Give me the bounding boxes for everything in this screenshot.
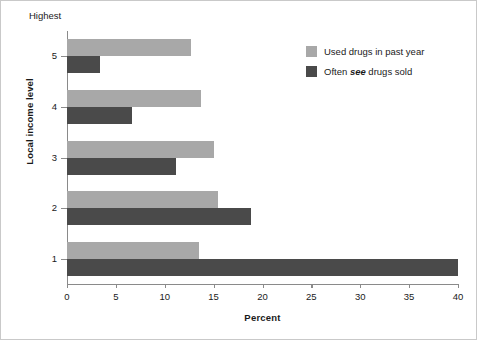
legend: Used drugs in past year Often see drugs …	[306, 46, 424, 86]
legend-item-see-drugs-sold: Often see drugs sold	[306, 66, 424, 77]
bar-group-level-3	[67, 141, 458, 175]
legend-label-used-drugs: Used drugs in past year	[324, 46, 424, 57]
x-tick-label-0: 0	[52, 291, 82, 302]
x-tick-15	[214, 284, 215, 288]
x-tick-label-40: 40	[443, 291, 473, 302]
x-tick-label-25: 25	[296, 291, 326, 302]
legend-swatch-dark-icon	[306, 66, 317, 77]
bar-see-drugs-sold-level-4	[67, 107, 132, 124]
bar-see-drugs-sold-level-3	[67, 158, 176, 175]
highest-annotation: Highest	[29, 10, 61, 21]
y-tick-2	[61, 208, 67, 209]
x-tick-label-35: 35	[394, 291, 424, 302]
x-tick-label-15: 15	[199, 291, 229, 302]
bar-see-drugs-sold-level-5	[67, 56, 100, 73]
y-tick-3	[61, 158, 67, 159]
bar-used-drugs-level-5	[67, 39, 191, 56]
x-tick-0	[67, 284, 68, 288]
bar-group-level-4	[67, 90, 458, 124]
y-tick-1	[61, 259, 67, 260]
y-tick-5	[61, 56, 67, 57]
bar-group-level-2	[67, 191, 458, 225]
bar-see-drugs-sold-level-1	[67, 259, 458, 276]
legend-label-see-drugs-sold: Often see drugs sold	[324, 66, 412, 77]
legend-item-used-drugs: Used drugs in past year	[306, 46, 424, 57]
x-tick-label-10: 10	[150, 291, 180, 302]
y-axis-title: Local income level	[24, 47, 35, 197]
x-tick-10	[165, 284, 166, 288]
x-tick-label-30: 30	[345, 291, 375, 302]
x-tick-40	[458, 284, 459, 288]
bar-see-drugs-sold-level-2	[67, 208, 251, 225]
x-tick-5	[116, 284, 117, 288]
y-tick-label-4: 4	[41, 101, 57, 112]
x-axis-title: Percent	[67, 312, 458, 323]
x-tick-label-20: 20	[248, 291, 278, 302]
x-tick-25	[311, 284, 312, 288]
bar-used-drugs-level-4	[67, 90, 201, 107]
chart-figure: Highest Local income level Percent Used …	[0, 0, 477, 340]
bar-used-drugs-level-3	[67, 141, 214, 158]
y-tick-label-5: 5	[41, 50, 57, 61]
x-tick-35	[409, 284, 410, 288]
x-tick-20	[263, 284, 264, 288]
bar-used-drugs-level-1	[67, 242, 199, 259]
bar-used-drugs-level-2	[67, 191, 218, 208]
y-tick-label-1: 1	[41, 253, 57, 264]
x-tick-30	[360, 284, 361, 288]
y-tick-4	[61, 107, 67, 108]
y-tick-label-3: 3	[41, 152, 57, 163]
y-tick-label-2: 2	[41, 202, 57, 213]
bar-group-level-1	[67, 242, 458, 276]
legend-swatch-light-icon	[306, 46, 317, 57]
x-tick-label-5: 5	[101, 291, 131, 302]
